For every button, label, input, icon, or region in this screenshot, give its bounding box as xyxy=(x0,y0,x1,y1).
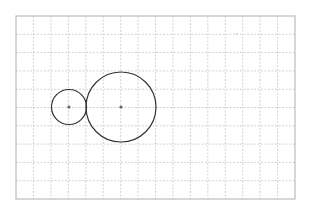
small-circle-center-point xyxy=(67,105,70,108)
marks xyxy=(236,33,238,35)
geometry-diagram xyxy=(0,0,309,214)
circles xyxy=(52,72,157,142)
faint-mark xyxy=(236,33,238,35)
large-circle-center-point xyxy=(119,105,122,108)
